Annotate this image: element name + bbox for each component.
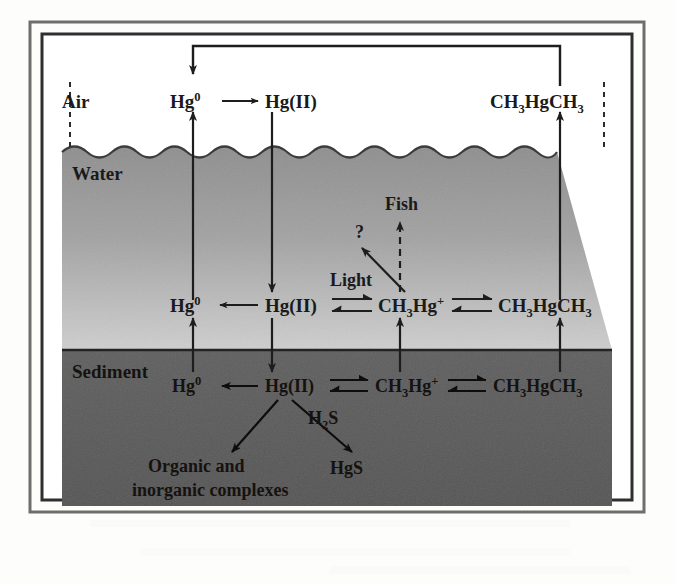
sed-dmhg-sub2: 3 xyxy=(576,386,582,400)
water-hg0-symbol: Hg xyxy=(170,295,195,316)
sed-mmhg-ch: CH xyxy=(375,376,402,396)
air-hg2-symbol: Hg(II) xyxy=(265,91,317,113)
sed-hg2-symbol: Hg(II) xyxy=(265,376,314,397)
air-dmhg-ch2: CH xyxy=(549,91,578,112)
zone-label-air: Air xyxy=(62,91,90,112)
air-hg0-superscript: 0 xyxy=(194,90,200,104)
annotation-fish: Fish xyxy=(385,194,418,214)
h2s-h: H xyxy=(308,408,322,428)
figure-canvas: Air Hg0 Hg(II) CH3HgCH3 Water Fish ? Lig… xyxy=(0,0,676,584)
annotation-complexes-line1: Organic and xyxy=(148,456,245,476)
air-dmhg-hg: Hg xyxy=(525,91,550,112)
species-air-hg2: Hg(II) xyxy=(265,91,317,113)
air-dmhg-sub2: 3 xyxy=(578,102,584,116)
annotation-complexes-line2: inorganic complexes xyxy=(132,480,288,500)
sed-mmhg-charge: + xyxy=(431,374,438,388)
water-mmhg-hg: Hg xyxy=(413,295,438,316)
species-water-hg2: Hg(II) xyxy=(265,295,317,317)
water-hg2-symbol: Hg(II) xyxy=(265,295,317,317)
sed-mmhg-hg: Hg xyxy=(408,376,431,396)
annotation-hgs: HgS xyxy=(330,458,363,478)
water-hg0-superscript: 0 xyxy=(194,294,200,308)
annotation-light: Light xyxy=(330,270,372,290)
water-dmhg-hg: Hg xyxy=(533,295,558,316)
zone-label-water: Water xyxy=(72,163,123,184)
water-dmhg-ch: CH xyxy=(498,295,527,316)
annotation-question: ? xyxy=(355,222,364,242)
sed-hg0-symbol: Hg xyxy=(172,376,195,396)
water-mmhg-ch: CH xyxy=(378,295,407,316)
zone-label-sediment: Sediment xyxy=(72,361,149,382)
air-dmhg-ch: CH xyxy=(490,91,519,112)
air-hg0-symbol: Hg xyxy=(170,91,195,112)
species-sed-hg2: Hg(II) xyxy=(265,376,314,397)
zone-water xyxy=(62,140,612,352)
sed-dmhg-ch: CH xyxy=(493,376,520,396)
sed-hg0-superscript: 0 xyxy=(195,374,201,388)
water-dmhg-ch2: CH xyxy=(557,295,586,316)
water-dmhg-sub2: 3 xyxy=(586,306,592,320)
sed-dmhg-ch2: CH xyxy=(549,376,576,396)
water-mmhg-charge: + xyxy=(437,294,444,308)
sed-dmhg-hg: Hg xyxy=(526,376,549,396)
h2s-s: S xyxy=(328,408,338,428)
